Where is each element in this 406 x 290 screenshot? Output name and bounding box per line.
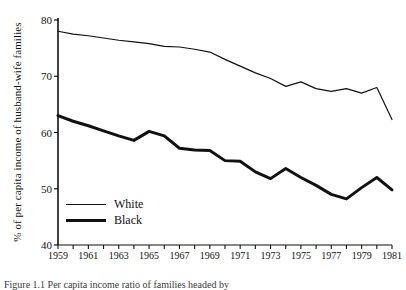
x-axis-tick-labels: 1959196119631965196719691971197319751977… [0, 250, 401, 268]
x-tick-label: 1981 [372, 250, 406, 262]
chart-legend: White Black [66, 196, 143, 228]
legend-item-white: White [66, 196, 143, 212]
legend-line-black-icon [66, 219, 106, 222]
legend-item-black: Black [66, 212, 143, 228]
x-axis-tick-marks [58, 245, 392, 249]
chart-series-layer [58, 31, 392, 199]
legend-label-black: Black [114, 214, 142, 226]
series-line-black [58, 116, 392, 199]
figure-caption: Figure 1.1 Per capita income ratio of fa… [4, 279, 229, 290]
legend-label-white: White [114, 198, 143, 210]
legend-line-white-icon [66, 204, 106, 205]
series-line-white [58, 31, 392, 119]
